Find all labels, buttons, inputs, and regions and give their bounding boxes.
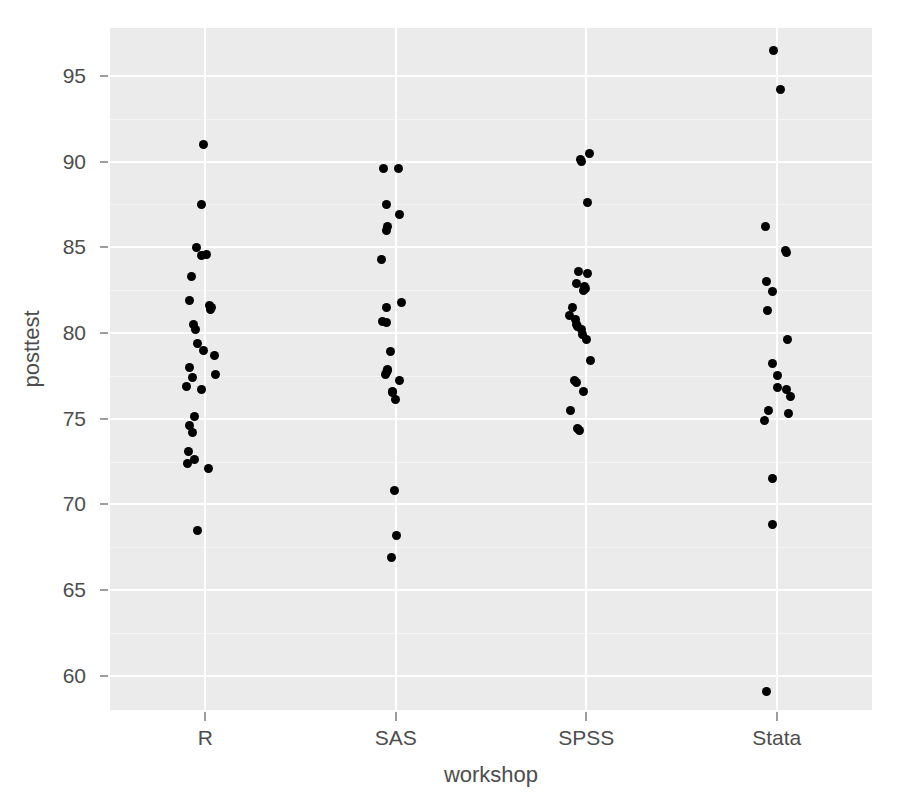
data-point — [382, 226, 391, 235]
data-point — [184, 447, 193, 456]
y-axis-title: posttest — [19, 259, 45, 439]
y-tick-mark — [100, 161, 108, 163]
data-point — [397, 298, 406, 307]
data-point — [583, 198, 592, 207]
data-point — [773, 383, 782, 392]
gridline-major-vertical — [776, 28, 778, 710]
data-point — [379, 164, 388, 173]
gridline-major-horizontal — [110, 503, 872, 505]
data-point — [572, 378, 581, 387]
data-point — [769, 46, 778, 55]
data-point — [199, 140, 208, 149]
y-tick-mark — [100, 246, 108, 248]
y-tick-mark — [100, 332, 108, 334]
gridline-major-horizontal — [110, 246, 872, 248]
y-tick-label: 95 — [16, 65, 86, 86]
data-point — [762, 277, 771, 286]
data-point — [182, 382, 191, 391]
gridline-major-horizontal — [110, 332, 872, 334]
scatter-plot-figure: 6065707580859095 RSASSPSSStata workshop … — [0, 0, 902, 808]
y-tick-mark — [100, 418, 108, 420]
gridline-minor-horizontal — [110, 633, 872, 634]
data-point — [185, 363, 194, 372]
data-point — [579, 387, 588, 396]
data-point — [197, 200, 206, 209]
data-point — [764, 406, 773, 415]
data-point — [185, 296, 194, 305]
y-tick-label: 60 — [16, 665, 86, 686]
data-point — [783, 335, 792, 344]
gridline-minor-horizontal — [110, 462, 872, 463]
data-point — [583, 269, 592, 278]
data-point — [197, 385, 206, 394]
data-point — [206, 305, 215, 314]
data-point — [575, 426, 584, 435]
gridline-major-vertical — [395, 28, 397, 710]
y-tick-mark — [100, 503, 108, 505]
data-point — [394, 164, 403, 173]
x-tick-label-sas: SAS — [316, 726, 476, 750]
gridline-minor-horizontal — [110, 119, 872, 120]
data-point — [204, 464, 213, 473]
gridline-major-horizontal — [110, 675, 872, 677]
data-point — [210, 351, 219, 360]
x-tick-mark — [585, 712, 587, 721]
data-point — [188, 373, 197, 382]
data-point — [760, 416, 769, 425]
data-point — [786, 392, 795, 401]
data-point — [191, 325, 200, 334]
y-tick-label: 70 — [16, 493, 86, 514]
y-tick-label: 90 — [16, 151, 86, 172]
y-tick-mark — [100, 675, 108, 677]
data-point — [190, 412, 199, 421]
y-tick-mark — [100, 589, 108, 591]
data-point — [211, 370, 220, 379]
data-point — [183, 459, 192, 468]
data-point — [381, 370, 390, 379]
plot-panel — [110, 28, 872, 710]
y-tick-mark — [100, 75, 108, 77]
data-point — [762, 687, 771, 696]
gridline-major-vertical — [204, 28, 206, 710]
y-tick-label: 85 — [16, 236, 86, 257]
data-point — [566, 406, 575, 415]
data-point — [586, 356, 595, 365]
x-tick-label-stata: Stata — [697, 726, 857, 750]
x-axis-title: workshop — [110, 762, 872, 788]
data-point — [193, 526, 202, 535]
data-point — [187, 272, 196, 281]
y-tick-label: 65 — [16, 579, 86, 600]
x-tick-mark — [204, 712, 206, 721]
data-point — [395, 376, 404, 385]
data-point — [188, 428, 197, 437]
data-point — [585, 149, 594, 158]
x-tick-mark — [776, 712, 778, 721]
data-point — [199, 346, 208, 355]
data-point — [782, 248, 791, 257]
data-point — [377, 255, 386, 264]
gridline-minor-horizontal — [110, 204, 872, 205]
data-point — [382, 318, 391, 327]
data-point — [773, 371, 782, 380]
data-point — [382, 303, 391, 312]
gridline-major-vertical — [585, 28, 587, 710]
gridline-minor-horizontal — [110, 376, 872, 377]
data-point — [577, 157, 586, 166]
y-axis: 6065707580859095 — [0, 28, 108, 710]
gridline-major-horizontal — [110, 589, 872, 591]
data-point — [391, 395, 400, 404]
gridline-minor-horizontal — [110, 290, 872, 291]
x-tick-label-spss: SPSS — [506, 726, 666, 750]
gridline-minor-horizontal — [110, 547, 872, 548]
data-point — [574, 267, 583, 276]
gridline-major-horizontal — [110, 75, 872, 77]
gridline-major-horizontal — [110, 161, 872, 163]
data-point — [392, 531, 401, 540]
x-tick-label-r: R — [125, 726, 285, 750]
data-point — [579, 286, 588, 295]
data-point — [390, 486, 399, 495]
data-point — [582, 335, 591, 344]
data-point — [382, 200, 391, 209]
x-tick-mark — [395, 712, 397, 721]
data-point — [784, 409, 793, 418]
